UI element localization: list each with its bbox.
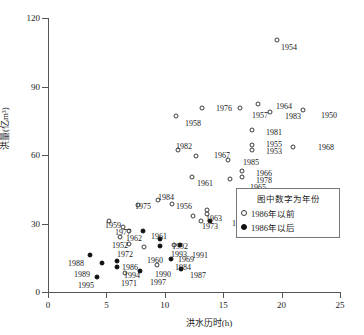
point-label: 1961 <box>197 180 213 188</box>
data-point <box>194 154 199 159</box>
data-point <box>114 264 119 269</box>
x-tick-label: 10 <box>160 300 169 310</box>
point-label: 1960 <box>147 257 163 265</box>
legend-entries: 1986年以前1986年以后 <box>241 207 335 233</box>
y-tick-label: 0 <box>18 287 40 297</box>
point-label: 1995 <box>78 282 94 290</box>
data-point <box>274 37 279 42</box>
data-point <box>239 174 244 179</box>
y-tick-label: 120 <box>18 13 40 23</box>
point-label: 1958 <box>185 120 201 128</box>
data-point <box>99 261 104 266</box>
data-point <box>141 245 146 250</box>
y-tick <box>42 87 48 88</box>
legend-title: 图中数字为年份 <box>241 192 335 204</box>
point-label: 1952 <box>112 242 128 250</box>
data-point <box>190 213 195 218</box>
x-tick-label: 0 <box>46 300 51 310</box>
point-label: 1975 <box>135 203 151 211</box>
point-label: 1962 <box>126 235 142 243</box>
data-point <box>174 114 179 119</box>
legend: 图中数字为年份 1986年以前1986年以后 <box>236 188 340 238</box>
filled-circle-icon <box>241 224 247 230</box>
x-tick <box>106 292 107 298</box>
data-point <box>228 176 233 181</box>
point-label: 1971 <box>121 280 137 288</box>
x-tick <box>340 292 341 298</box>
data-point <box>250 148 255 153</box>
point-label: 1987 <box>190 272 206 280</box>
point-label: 1984 <box>158 194 174 202</box>
scatter-chart: 0306090120 0510152025 洪量(亿m³) 洪水历时(h) 19… <box>0 0 364 335</box>
point-label: 1954 <box>281 44 297 52</box>
x-tick-label: 20 <box>277 300 286 310</box>
data-point <box>88 253 93 258</box>
point-label: 1985 <box>243 159 259 167</box>
x-tick-label: 5 <box>104 300 109 310</box>
y-axis-label: 洪量(亿m³) <box>0 107 11 150</box>
point-label: 1997 <box>150 279 166 287</box>
legend-entry: 1986年以后 <box>241 221 335 233</box>
y-tick-label: 60 <box>18 150 40 160</box>
x-tick <box>165 292 166 298</box>
open-circle-icon <box>241 210 247 216</box>
point-label: 1964 <box>276 103 292 111</box>
y-axis-line <box>48 18 49 292</box>
x-axis-label-text: 洪水历时(h) <box>132 318 233 328</box>
data-point <box>256 101 261 106</box>
legend-entry-label: 1986年以后 <box>251 221 295 233</box>
x-axis-line <box>48 292 340 293</box>
point-label: 1972 <box>117 251 133 259</box>
data-point <box>250 127 255 132</box>
legend-entry-label: 1986年以前 <box>251 207 295 219</box>
y-tick <box>42 18 48 19</box>
point-label: 1950 <box>321 112 337 120</box>
y-tick <box>42 155 48 156</box>
point-label: 1961 <box>151 233 167 241</box>
data-point <box>189 174 194 179</box>
point-label: 1956 <box>176 203 192 211</box>
x-tick-label: 25 <box>336 300 345 310</box>
y-tick-label: 30 <box>18 219 40 229</box>
y-tick-label: 90 <box>18 82 40 92</box>
point-label: 1983 <box>285 113 301 121</box>
data-point <box>250 142 255 147</box>
point-label: 1982 <box>176 143 192 151</box>
x-tick <box>223 292 224 298</box>
x-tick-label: 15 <box>219 300 228 310</box>
point-label: 1957 <box>252 112 268 120</box>
data-point <box>158 244 163 249</box>
data-point <box>169 202 174 207</box>
point-label: 1989 <box>74 271 90 279</box>
y-tick <box>42 224 48 225</box>
x-tick <box>48 292 49 298</box>
x-tick <box>282 292 283 298</box>
data-point <box>114 259 119 264</box>
point-label: 1973 <box>202 223 218 231</box>
point-label: 1988 <box>68 260 84 268</box>
data-point <box>237 106 242 111</box>
x-axis-label: 洪水历时(h) <box>0 316 364 329</box>
point-label: 1976 <box>216 105 232 113</box>
data-point <box>95 275 100 280</box>
data-point <box>200 106 205 111</box>
data-point <box>267 109 272 114</box>
point-label: 1968 <box>318 144 334 152</box>
legend-entry: 1986年以前 <box>241 207 335 219</box>
point-label: 1967 <box>214 152 230 160</box>
point-label: 1953 <box>266 148 282 156</box>
point-label: 1981 <box>266 129 282 137</box>
point-label: 1991 <box>192 252 208 260</box>
data-point <box>239 168 244 173</box>
data-point <box>291 145 296 150</box>
point-label: 1984 <box>175 264 191 272</box>
